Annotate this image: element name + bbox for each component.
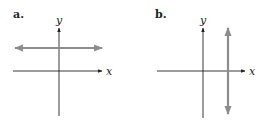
panel-b-label: b. bbox=[155, 8, 167, 21]
panel-a-x-label: x bbox=[106, 65, 113, 78]
panel-a-y-label: y bbox=[55, 14, 63, 27]
panel-a-label: a. bbox=[13, 8, 24, 21]
panel-b-x-label: x bbox=[249, 65, 256, 78]
panel-a: a. x y bbox=[13, 8, 113, 116]
panel-b: b. x y bbox=[155, 8, 256, 118]
panel-b-y-label: y bbox=[199, 14, 207, 27]
figure: a. x y b. x y bbox=[0, 0, 258, 125]
